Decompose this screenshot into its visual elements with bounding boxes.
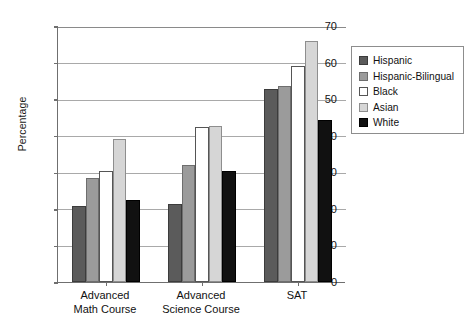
y-axis-tick [54,26,58,27]
bar [209,126,223,282]
legend-item: White [359,115,463,131]
legend-swatch-icon [359,56,368,65]
x-axis-tick [106,282,107,286]
y-axis-title: Percentage [16,54,28,194]
y-axis-tick [54,209,58,210]
y-axis-tick [54,63,58,64]
plot-area: 010203040506070 [57,27,345,283]
y-axis-tick [54,173,58,174]
y-axis-tick [54,246,58,247]
bar [182,165,196,282]
legend-swatch-icon [359,118,368,127]
x-axis-tick [202,282,203,286]
bar [305,41,319,282]
legend-item-label: Asian [373,102,398,113]
bar [222,171,236,282]
bar [318,120,332,282]
bar [126,200,140,282]
x-axis-tick [298,282,299,286]
bar [168,204,182,282]
legend-item: Hispanic [359,53,463,69]
y-axis-tick-label: 70 [297,21,337,32]
legend-swatch-icon [359,103,368,112]
legend-item-label: Black [373,86,398,97]
bar [195,127,209,282]
bar [99,171,113,282]
legend-swatch-icon [359,87,368,96]
legend: HispanicHispanic-BilingualBlackAsianWhit… [351,46,464,134]
legend-item: Black [359,84,463,100]
bar [278,86,292,282]
legend-item-label: Hispanic [373,55,412,66]
y-axis-tick [54,99,58,100]
y-axis-tick [54,136,58,137]
bar [72,206,86,282]
x-axis-group-label: SAT [227,289,367,303]
bar [291,66,305,282]
y-axis-tick [54,282,58,283]
legend-item: Hispanic-Bilingual [359,69,463,85]
bar [113,139,127,282]
bar [86,178,100,282]
bar-chart: Percentage 010203040506070 Advanced Math… [0,0,470,331]
legend-item-label: Hispanic-Bilingual [373,71,454,82]
legend-item: Asian [359,100,463,116]
legend-swatch-icon [359,72,368,81]
legend-item-label: White [373,117,399,128]
bar [264,89,278,282]
